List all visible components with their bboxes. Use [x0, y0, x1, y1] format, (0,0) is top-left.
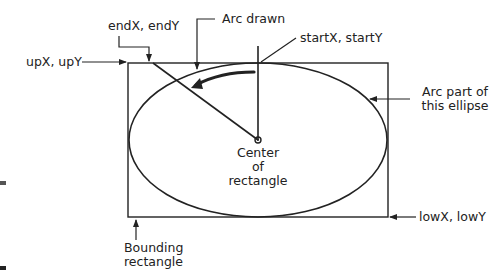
diagram-graphics — [0, 0, 501, 278]
end-point-label: endX, endY — [108, 19, 179, 33]
start-point-label: startX, startY — [300, 31, 382, 45]
upper-point-label: upX, upY — [26, 55, 82, 69]
start-point-leader — [261, 38, 296, 62]
ellipse-label-line1: Arc part of — [412, 85, 498, 99]
margin-mark — [0, 266, 6, 270]
ellipse-label: Arc part of this ellipse — [412, 85, 498, 113]
end-point-leader — [119, 36, 149, 61]
arc-direction-arrow-icon — [196, 72, 254, 85]
center-label-line1: Center — [220, 146, 296, 160]
center-label-line2: of — [220, 160, 296, 174]
center-label-line3: rectangle — [220, 174, 296, 188]
arc-drawn-label: Arc drawn — [222, 12, 285, 26]
margin-mark — [0, 181, 6, 185]
center-label: Center of rectangle — [220, 146, 296, 188]
lower-point-label: lowX, lowY — [419, 210, 486, 224]
bounding-label-line2: rectangle — [124, 255, 183, 269]
bounding-label: Bounding rectangle — [124, 241, 183, 269]
ellipse-label-line2: this ellipse — [412, 99, 498, 113]
bounding-label-line1: Bounding — [124, 241, 183, 255]
end-angle-line — [153, 63, 258, 140]
arc-drawn-leader — [197, 19, 215, 69]
arc-diagram: endX, endY Arc drawn startX, startY upX,… — [0, 0, 501, 278]
